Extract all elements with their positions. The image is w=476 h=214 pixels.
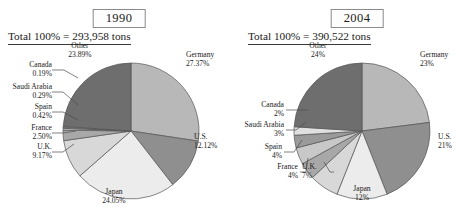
pie-slice-germany (131, 63, 199, 141)
pie-chart-1990: 1990 Total 100% = 293,958 tons (0, 0, 238, 214)
pie-label-germany: Germany 23% (420, 51, 472, 69)
pie-label-us: U.S. 21% (438, 133, 476, 151)
pie-label-other: Other 24% (293, 42, 343, 60)
pie-label-spain: Spain 0.42% (2, 103, 52, 121)
pie-label-saudi-arabia: Saudi Arabia 3% (238, 121, 284, 139)
pie-label-france: France 4% (254, 163, 298, 181)
pie-label-germany: Germany 27.37% (186, 51, 238, 69)
pie-label-spain: Spain 4% (238, 143, 282, 161)
pie-label-other: Other 23.89% (55, 42, 105, 60)
pie-label-japan: Japan 12% (336, 185, 388, 203)
pie-label-japan: Japan 24.05% (84, 188, 144, 206)
pie-label-us: U.S. 12.12% (194, 133, 238, 151)
pie-slice-other (63, 63, 131, 131)
leader-line-canada (52, 70, 78, 78)
pie-label-canada: Canada 0.19% (2, 61, 52, 79)
pie-slice-other (294, 63, 362, 131)
pie-label-uk: U.K. 9.17% (2, 143, 52, 161)
pie-label-saudi-arabia: Saudi Arabia 0.29% (0, 83, 52, 101)
pie-slice-germany (362, 63, 429, 131)
pie-label-uk: U.K. 7% (302, 163, 334, 181)
pie-chart-2004: 2004 Total 100% = 390,522 tons (238, 0, 476, 214)
pie-label-france: France 2.50% (2, 124, 52, 142)
pie-label-canada: Canada 2% (238, 101, 284, 119)
